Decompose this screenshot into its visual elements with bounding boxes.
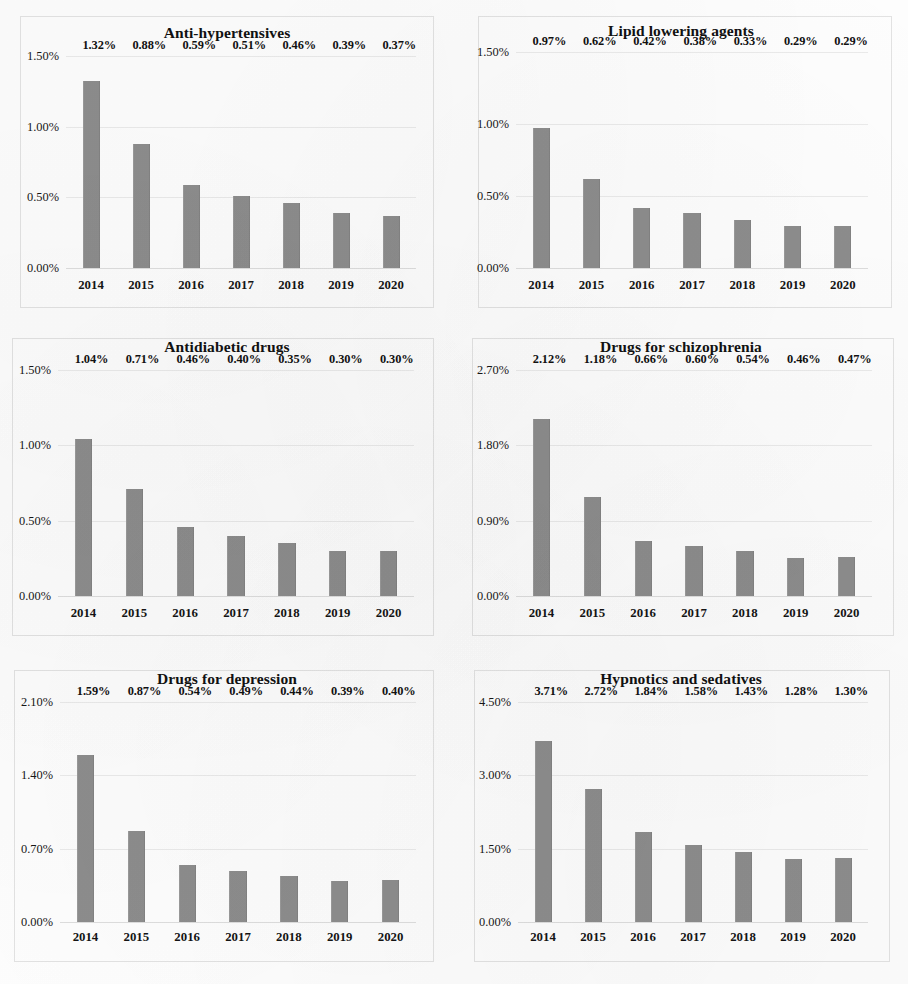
bar[interactable]: 0.33% xyxy=(734,220,751,268)
bar[interactable]: 0.38% xyxy=(683,213,700,268)
bar[interactable]: 1.84% xyxy=(635,832,652,922)
bar-value-label: 2.12% xyxy=(533,352,567,367)
bar-slot: 0.51% xyxy=(216,56,266,268)
bar-slot: 0.42% xyxy=(617,52,667,268)
bar[interactable]: 0.39% xyxy=(333,213,350,268)
y-axis-tick-label: 1.50% xyxy=(479,841,511,856)
bar[interactable]: 0.97% xyxy=(533,128,550,268)
x-axis-labels: 2014201520162017201820192020 xyxy=(516,606,872,621)
bar[interactable]: 1.28% xyxy=(785,859,802,922)
bar-slot: 0.62% xyxy=(566,52,616,268)
bar[interactable]: 0.62% xyxy=(583,179,600,268)
bar[interactable]: 0.47% xyxy=(838,557,855,596)
x-axis-tick-label: 2020 xyxy=(818,278,868,293)
x-axis-tick-label: 2019 xyxy=(770,606,821,621)
bar-value-label: 0.33% xyxy=(734,34,768,49)
y-axis-tick-label: 3.00% xyxy=(479,768,511,783)
bar-slot: 0.40% xyxy=(211,370,262,596)
bar[interactable]: 1.43% xyxy=(735,852,752,922)
bar[interactable]: 0.71% xyxy=(126,489,143,596)
bar[interactable]: 0.39% xyxy=(331,881,348,922)
bar[interactable]: 0.54% xyxy=(179,865,196,922)
bar-slot: 0.88% xyxy=(116,56,166,268)
x-axis-tick-label: 2014 xyxy=(66,278,116,293)
bar[interactable]: 0.29% xyxy=(784,226,801,268)
bar[interactable]: 1.18% xyxy=(584,497,601,596)
bar[interactable]: 1.59% xyxy=(77,755,94,922)
x-axis-labels: 2014201520162017201820192020 xyxy=(60,930,416,945)
bar[interactable]: 0.87% xyxy=(128,831,145,922)
bar-slot: 0.66% xyxy=(618,370,669,596)
bar[interactable]: 2.72% xyxy=(585,789,602,922)
bar-series: 1.32%0.88%0.59%0.51%0.46%0.39%0.37% xyxy=(66,56,416,268)
bar[interactable]: 0.46% xyxy=(283,203,300,268)
bar-slot: 0.30% xyxy=(312,370,363,596)
axis-baseline: 0.00% xyxy=(58,596,414,597)
bar-value-label: 0.97% xyxy=(533,34,567,49)
y-axis-tick-label: 2.70% xyxy=(477,363,509,378)
chart-panel-antidiabetic-drugs: Antidiabetic drugs0.00%0.50%1.00%1.50%1.… xyxy=(0,328,454,658)
bar-value-label: 0.38% xyxy=(683,34,717,49)
bar-slot: 0.40% xyxy=(365,702,416,922)
bar[interactable]: 0.46% xyxy=(787,558,804,597)
bar[interactable]: 0.66% xyxy=(635,541,652,596)
bar[interactable]: 1.32% xyxy=(83,81,100,268)
bar[interactable]: 1.58% xyxy=(685,845,702,922)
bar[interactable]: 0.60% xyxy=(685,546,702,596)
bar[interactable]: 0.35% xyxy=(278,543,295,596)
bar[interactable]: 2.12% xyxy=(533,419,550,596)
x-axis-labels: 2014201520162017201820192020 xyxy=(66,278,416,293)
bar-slot: 1.28% xyxy=(768,702,818,922)
bar-slot: 0.87% xyxy=(111,702,162,922)
x-axis-tick-label: 2020 xyxy=(366,278,416,293)
bar[interactable]: 1.04% xyxy=(75,439,92,596)
bar-slot: 1.58% xyxy=(668,702,718,922)
bar[interactable]: 0.40% xyxy=(227,536,244,596)
y-axis-tick-label: 1.80% xyxy=(477,438,509,453)
bar-value-label: 0.60% xyxy=(685,352,719,367)
bar[interactable]: 1.30% xyxy=(835,858,852,922)
bar[interactable]: 0.40% xyxy=(382,880,399,922)
x-axis-tick-label: 2014 xyxy=(58,606,109,621)
bar[interactable]: 0.49% xyxy=(229,871,246,922)
y-axis-tick-label: 0.70% xyxy=(21,841,53,856)
bar-slot: 0.46% xyxy=(266,56,316,268)
bar[interactable]: 0.59% xyxy=(183,185,200,268)
x-axis-tick-label: 2018 xyxy=(266,278,316,293)
x-axis-tick-label: 2014 xyxy=(516,606,567,621)
bar-value-label: 0.49% xyxy=(229,684,263,699)
bar[interactable]: 0.30% xyxy=(329,551,346,596)
bar-value-label: 0.40% xyxy=(382,684,416,699)
bar[interactable]: 0.44% xyxy=(280,876,297,922)
y-axis-tick-label: 0.00% xyxy=(477,589,509,604)
x-axis-tick-label: 2015 xyxy=(109,606,160,621)
bar[interactable]: 0.51% xyxy=(233,196,250,268)
bar[interactable]: 3.71% xyxy=(535,741,552,922)
y-axis-tick-label: 1.00% xyxy=(19,438,51,453)
y-axis-tick-label: 0.00% xyxy=(479,915,511,930)
x-axis-tick-label: 2017 xyxy=(211,606,262,621)
x-axis-tick-label: 2016 xyxy=(618,606,669,621)
x-axis-tick-label: 2018 xyxy=(717,278,767,293)
plot-area: 0.00%1.50%3.00%4.50%3.71%2.72%1.84%1.58%… xyxy=(518,702,868,922)
x-axis-tick-label: 2018 xyxy=(718,930,768,945)
x-axis-tick-label: 2017 xyxy=(668,930,718,945)
bar-value-label: 0.30% xyxy=(380,352,414,367)
bar[interactable]: 0.54% xyxy=(736,551,753,596)
bar[interactable]: 0.88% xyxy=(133,144,150,268)
x-axis-tick-label: 2020 xyxy=(365,930,416,945)
bar[interactable]: 0.30% xyxy=(380,551,397,596)
bar-slot: 2.72% xyxy=(568,702,618,922)
bar[interactable]: 0.37% xyxy=(383,216,400,268)
y-axis-tick-label: 2.10% xyxy=(21,695,53,710)
y-axis-tick-label: 0.00% xyxy=(27,261,59,276)
plot-area: 0.00%0.50%1.00%1.50%1.32%0.88%0.59%0.51%… xyxy=(66,56,416,268)
x-axis-tick-label: 2020 xyxy=(821,606,872,621)
bar-value-label: 1.18% xyxy=(584,352,618,367)
x-axis-tick-label: 2018 xyxy=(261,606,312,621)
bar[interactable]: 0.46% xyxy=(177,527,194,596)
bar[interactable]: 0.29% xyxy=(834,226,851,268)
x-axis-tick-label: 2019 xyxy=(314,930,365,945)
x-axis-tick-label: 2019 xyxy=(316,278,366,293)
bar[interactable]: 0.42% xyxy=(633,208,650,268)
